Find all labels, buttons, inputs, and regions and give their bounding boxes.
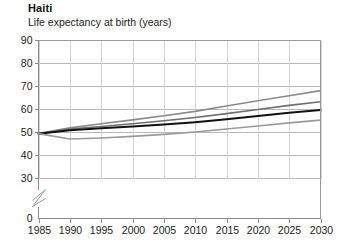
- x-axis-tick-label: 2010: [184, 224, 208, 236]
- x-axis-tick-label: 2025: [278, 224, 302, 236]
- grid-lines: [39, 41, 322, 179]
- y-axis-tick-label: 90: [21, 34, 33, 46]
- y-axis-tick-label: 50: [21, 126, 33, 138]
- x-axis-tick-label: 2020: [247, 224, 271, 236]
- y-axis-tick-label-zero: 0: [27, 212, 33, 224]
- axis-tick-marks: [35, 41, 322, 223]
- y-axis-tick-label: 40: [21, 149, 33, 161]
- y-axis-tick-label: 70: [21, 80, 33, 92]
- y-axis-tick-label: 80: [21, 57, 33, 69]
- series-line-high-variant: [39, 91, 321, 134]
- x-axis-tick-label: 1990: [59, 224, 83, 236]
- axis-break-symbol: [33, 190, 46, 207]
- x-axis-tick-label: 2005: [153, 224, 177, 236]
- line-chart-plot: 908070605040300 198519901995200020052010…: [0, 0, 340, 251]
- x-axis-tick-label: 1995: [90, 224, 114, 236]
- x-axis-tick-labels: 1985199019952000200520102015202020252030: [28, 224, 334, 236]
- x-axis-tick-label: 2030: [310, 224, 334, 236]
- series-lines: [39, 91, 321, 139]
- y-axis-tick-labels: 908070605040300: [21, 34, 33, 224]
- y-axis-tick-label: 30: [21, 172, 33, 184]
- x-axis-tick-label: 1985: [28, 224, 52, 236]
- y-axis-tick-label: 60: [21, 103, 33, 115]
- axis-break-zigzag: [33, 190, 46, 207]
- chart-container: Haiti Life expectancy at birth (years) 9…: [0, 0, 340, 251]
- x-axis-tick-label: 2000: [122, 224, 146, 236]
- x-axis-tick-label: 2015: [216, 224, 240, 236]
